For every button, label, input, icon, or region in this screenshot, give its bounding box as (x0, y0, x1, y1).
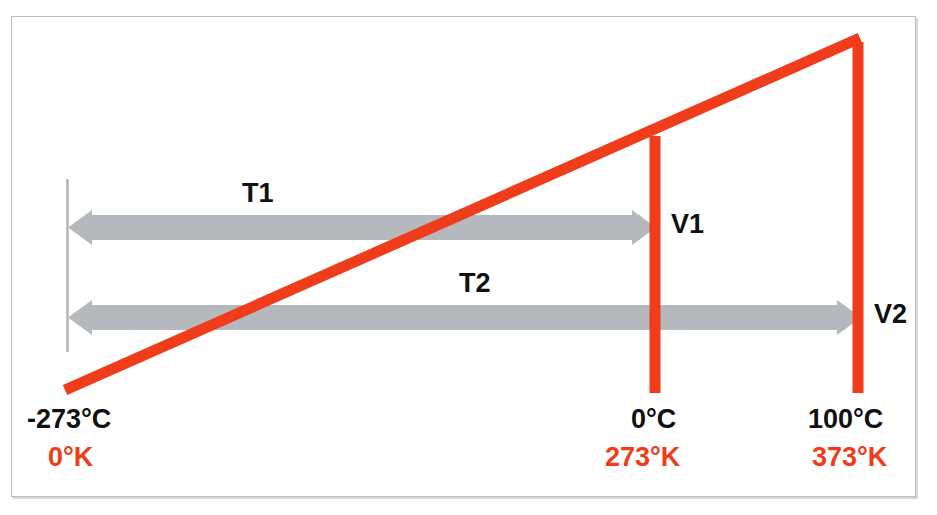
axis-label-mid-kelvin: 273°K (605, 442, 680, 473)
t2-arrow (68, 300, 861, 335)
t1-arrow (68, 210, 656, 245)
axis-label-mid-celsius: 0°C (631, 404, 676, 435)
v2-label: V2 (874, 299, 907, 330)
diagram-canvas (0, 0, 937, 515)
figure-root: T1 T2 V1 V2 -273°C 0°C 100°C 0°K 273°K 3… (0, 0, 937, 515)
axis-label-right-celsius: 100°C (808, 404, 883, 435)
axis-label-right-kelvin: 373°K (812, 442, 887, 473)
v1-label: V1 (671, 209, 704, 240)
t2-label: T2 (459, 268, 491, 299)
axis-label-left-kelvin: 0°K (48, 442, 93, 473)
t1-label: T1 (242, 178, 274, 209)
axis-label-left-celsius: -273°C (27, 404, 111, 435)
charles-law-line (65, 38, 860, 390)
